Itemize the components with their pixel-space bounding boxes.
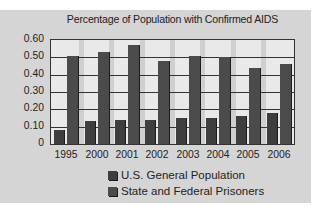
y-tick-label: 0.60 (4, 32, 44, 44)
bar-prisoners-2003 (189, 56, 200, 144)
y-tick-label: 0 (4, 136, 44, 148)
y-tick-label: 0.40 (4, 67, 44, 79)
y-tick-label: 0.30 (4, 84, 44, 96)
x-tick-label: 2000 (83, 148, 110, 160)
x-tick-label: 2006 (265, 148, 292, 160)
legend-label: State and Federal Prisoners (121, 185, 264, 197)
x-tick-label: 1995 (53, 148, 80, 160)
x-tick-label: 2001 (113, 148, 140, 160)
x-tick-label: 2005 (235, 148, 262, 160)
bar-general-population-2002 (145, 120, 155, 144)
plot-area (50, 39, 295, 145)
bar-general-population-2000 (85, 121, 95, 144)
gridline (51, 57, 294, 58)
legend-swatch-icon (108, 171, 117, 180)
x-tick-label: 2004 (205, 148, 232, 160)
legend-item: U.S. General Population (108, 167, 264, 183)
bar-general-population-1995 (54, 130, 64, 144)
bar-prisoners-2000 (98, 52, 109, 144)
bar-prisoners-2002 (158, 61, 169, 144)
y-tick-label: 0.50 (4, 49, 44, 61)
bar-general-population-2005 (236, 116, 246, 144)
bar-general-population-2006 (267, 113, 277, 144)
bar-prisoners-2005 (249, 68, 260, 144)
bar-general-population-2003 (176, 118, 186, 144)
x-tick-label: 2002 (144, 148, 171, 160)
legend-item: State and Federal Prisoners (108, 183, 264, 199)
legend-label: U.S. General Population (121, 169, 245, 181)
bar-prisoners-2004 (219, 57, 230, 144)
bar-general-population-2004 (206, 118, 216, 144)
legend: U.S. General PopulationState and Federal… (108, 167, 264, 199)
legend-swatch-icon (108, 187, 117, 196)
bar-general-population-2001 (115, 120, 125, 144)
bar-prisoners-1995 (67, 56, 78, 144)
bar-prisoners-2006 (280, 64, 291, 144)
y-tick-label: 0.10 (4, 119, 44, 131)
bar-prisoners-2001 (128, 45, 139, 144)
y-tick-label: 0.20 (4, 101, 44, 113)
chart-title: Percentage of Population with Confirmed … (60, 13, 285, 25)
x-tick-label: 2003 (174, 148, 201, 160)
